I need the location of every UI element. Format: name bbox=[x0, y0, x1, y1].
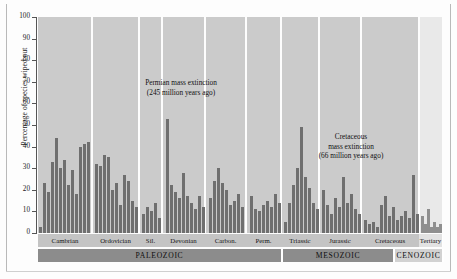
extinction-bar bbox=[312, 203, 315, 233]
extinction-bar bbox=[127, 181, 130, 233]
era-label-mesozoic: MESOZOIC bbox=[283, 249, 395, 262]
era-label-cenozoic: CENOZOIC bbox=[395, 249, 444, 262]
extinction-bar bbox=[262, 205, 265, 233]
y-axis-tick bbox=[32, 147, 37, 148]
extinction-bar bbox=[154, 203, 157, 233]
extinction-bar bbox=[87, 142, 90, 233]
annotation-line: Permian mass extinction bbox=[120, 78, 242, 88]
extinction-bar bbox=[376, 227, 379, 233]
extinction-bar bbox=[198, 196, 201, 233]
extinction-bar bbox=[392, 207, 395, 233]
extinction-bar bbox=[266, 201, 269, 233]
extinction-bar bbox=[213, 181, 216, 233]
y-axis-tick-label: 90 bbox=[14, 35, 30, 42]
extinction-bar bbox=[396, 220, 399, 233]
y-axis-tick bbox=[32, 211, 37, 212]
y-axis-tick bbox=[32, 17, 37, 18]
extinction-bar bbox=[296, 168, 299, 233]
extinction-bar bbox=[202, 207, 205, 233]
extinction-bar bbox=[229, 205, 232, 233]
chart-panel bbox=[247, 17, 280, 233]
extinction-bar bbox=[99, 166, 102, 233]
extinction-bar bbox=[71, 170, 74, 233]
y-axis-tick bbox=[32, 60, 37, 61]
era-label-paleozoic: PALEOZOIC bbox=[38, 249, 283, 262]
period-label-cambrian: Cambrian bbox=[38, 234, 93, 247]
geologic-era-strip: PALEOZOICMESOZOICCENOZOIC bbox=[38, 249, 442, 262]
extinction-bar bbox=[338, 207, 341, 233]
chart-panel bbox=[38, 17, 91, 233]
extinction-bar bbox=[83, 144, 86, 233]
extinction-bar bbox=[123, 175, 126, 233]
chart-panel bbox=[362, 17, 418, 233]
annotation-line: (66 million years ago) bbox=[288, 151, 414, 161]
extinction-bar bbox=[408, 218, 411, 233]
period-label-tertiary: Tertiary bbox=[419, 234, 443, 247]
extinction-bar bbox=[350, 194, 353, 233]
extinction-bar bbox=[304, 177, 307, 233]
extinction-bar bbox=[330, 214, 333, 233]
plot-area bbox=[38, 17, 442, 233]
period-label-carbon: Carbon. bbox=[205, 234, 247, 247]
y-axis-tick-label: 60 bbox=[14, 99, 30, 106]
geologic-period-strip: CambrianOrdovicianSil.DevonianCarbon.Per… bbox=[38, 234, 442, 247]
extinction-bar bbox=[346, 203, 349, 233]
extinction-bar bbox=[59, 168, 62, 233]
frame-rule-bottom bbox=[6, 271, 451, 272]
extinction-bar bbox=[384, 196, 387, 233]
extinction-bar bbox=[178, 198, 181, 233]
extinction-bar bbox=[288, 203, 291, 233]
period-label-triassic: Triassic bbox=[281, 234, 320, 247]
y-axis-tick bbox=[32, 82, 37, 83]
extinction-bar bbox=[308, 188, 311, 233]
extinction-bar bbox=[79, 147, 82, 233]
annotation-line: Cretaceous bbox=[288, 132, 414, 142]
annotation-line: (245 million years ago) bbox=[120, 88, 242, 98]
y-axis-tick-label: 0 bbox=[14, 229, 30, 236]
y-axis-tick-label: 100 bbox=[14, 13, 30, 20]
extinction-bar bbox=[404, 211, 407, 233]
extinction-bar bbox=[342, 177, 345, 233]
frame-rule-right bbox=[450, 4, 451, 272]
extinction-bar bbox=[412, 175, 415, 233]
extinction-bar bbox=[439, 224, 442, 233]
extinction-bar bbox=[115, 183, 118, 233]
y-axis-tick-label: 70 bbox=[14, 78, 30, 85]
extinction-bar bbox=[135, 207, 138, 233]
y-axis-tick-label: 30 bbox=[14, 164, 30, 171]
extinction-bar bbox=[142, 214, 145, 233]
extinction-bar bbox=[274, 194, 277, 233]
y-axis-tick-label: 80 bbox=[14, 56, 30, 63]
extinction-bar bbox=[388, 216, 391, 233]
chart-panel bbox=[93, 17, 138, 233]
y-axis-tick-label: 50 bbox=[14, 121, 30, 128]
extinction-bar bbox=[372, 222, 375, 233]
frame-rule-left bbox=[6, 4, 7, 272]
y-axis-tick bbox=[32, 190, 37, 191]
extinction-bar bbox=[186, 196, 189, 233]
period-label-devonian: Devonian bbox=[162, 234, 206, 247]
chart-panel bbox=[140, 17, 161, 233]
extinction-bar bbox=[55, 138, 58, 233]
extinction-bar bbox=[221, 183, 224, 233]
extinction-bar bbox=[194, 209, 197, 233]
extinction-bar bbox=[51, 162, 54, 233]
extinction-bar bbox=[67, 185, 70, 233]
extinction-bar bbox=[354, 209, 357, 233]
chart-panel bbox=[320, 17, 360, 233]
period-label-jurassic: Jurassic bbox=[319, 234, 362, 247]
period-label-ordovician: Ordovician bbox=[92, 234, 140, 247]
annotation-permian-extinction: Permian mass extinction(245 million year… bbox=[120, 78, 242, 97]
extinction-bar bbox=[166, 119, 169, 233]
y-axis-tick bbox=[32, 233, 37, 234]
extinction-bar bbox=[284, 222, 287, 233]
extinction-bar bbox=[190, 203, 193, 233]
extinction-bar bbox=[316, 209, 319, 233]
extinction-bar bbox=[146, 207, 149, 233]
y-axis-tick-label: 20 bbox=[14, 186, 30, 193]
extinction-bar bbox=[174, 192, 177, 233]
extinction-bar bbox=[400, 216, 403, 233]
extinction-bar bbox=[334, 198, 337, 233]
extinction-bar bbox=[292, 185, 295, 233]
extinction-bar bbox=[380, 205, 383, 233]
